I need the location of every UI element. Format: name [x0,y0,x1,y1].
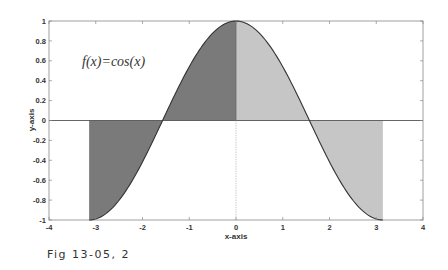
y-tick-label: 0.6 [36,56,46,65]
y-tick-label: 0.2 [36,96,46,105]
function-annotation: f(x)=cos(x) [82,54,145,70]
y-tick-label: 0 [42,116,46,125]
x-tick-label: -1 [186,223,193,232]
x-axis-label: x-axis [225,232,248,241]
y-tick-label: -0.4 [33,156,47,165]
x-tick-label: 2 [327,223,331,232]
y-tick-label: 0.8 [36,37,46,46]
cosine-area-chart: -4-3-2-101234 -1-0.8-0.6-0.4-0.200.20.40… [0,0,448,270]
x-tick-label: -4 [46,223,53,232]
y-tick-label: -0.6 [33,176,46,185]
y-tick-label: -0.2 [33,136,46,145]
x-tick-label: -2 [139,223,146,232]
y-tick-label: -0.8 [33,196,46,205]
x-tick-label: -3 [92,223,99,232]
x-tick-label: 1 [281,223,285,232]
x-tick-label: 4 [421,223,426,232]
x-tick-label: 3 [374,223,378,232]
y-tick-label: 1 [42,17,46,26]
y-tick-label: -1 [39,216,46,225]
y-axis-label: y-axis [27,108,36,131]
y-tick-label: 0.4 [36,76,47,85]
x-tick-label: 0 [234,223,238,232]
figure-caption: Fig 13-05, 2 [47,248,130,261]
